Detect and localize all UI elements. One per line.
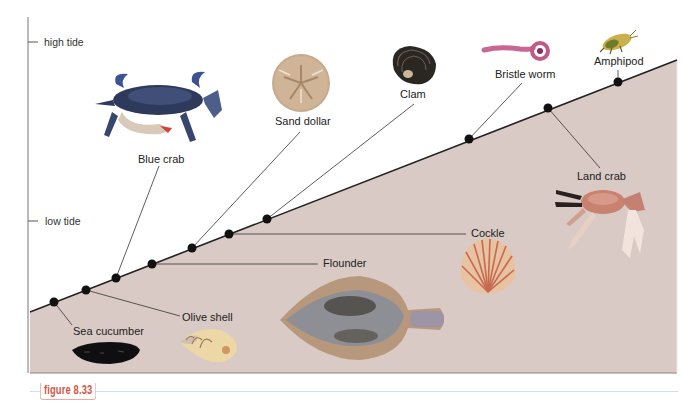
label-cockle: Cockle [471,227,505,239]
sand-dollar-icon [272,54,330,112]
amphipod-icon [600,30,638,54]
label-flounder: Flounder [323,257,367,269]
figure-label: figure 8.33 [40,383,96,400]
label-blue-crab: Blue crab [138,153,184,165]
label-land-crab: Land crab [577,170,626,182]
label-sea-cucumber: Sea cucumber [73,325,144,337]
shore-zonation-diagram: high tide low tide Sea cucumber Olive sh… [0,0,698,410]
label-olive-shell: Olive shell [182,311,233,323]
high-tide-label: high tide [44,36,84,48]
low-tide-label: low tide [45,215,81,227]
bristle-worm-icon [484,43,548,59]
blue-crab-icon [95,72,222,142]
clam-icon [393,46,436,84]
label-sand-dollar: Sand dollar [275,115,331,127]
footer-divider [30,391,678,392]
label-amphipod: Amphipod [594,55,644,67]
label-bristle-worm: Bristle worm [495,68,556,80]
label-clam: Clam [400,88,426,100]
